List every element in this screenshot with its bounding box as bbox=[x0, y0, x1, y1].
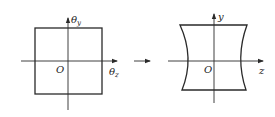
left-diagram: θy θz O bbox=[21, 14, 119, 110]
left-origin-label: O bbox=[56, 64, 64, 75]
z-axis-label: z bbox=[258, 65, 265, 76]
right-origin-label: O bbox=[204, 64, 212, 75]
theta-y-subscript: y bbox=[76, 19, 82, 27]
diagram-canvas: θy θz O y z O bbox=[0, 0, 275, 117]
theta-z-label: θz bbox=[109, 66, 119, 79]
y-axis-label: y bbox=[217, 11, 224, 22]
pincushion-outline bbox=[180, 25, 247, 90]
right-diagram: y z O bbox=[168, 11, 265, 103]
theta-z-subscript: z bbox=[114, 71, 119, 79]
theta-y-label: θy bbox=[71, 14, 82, 27]
